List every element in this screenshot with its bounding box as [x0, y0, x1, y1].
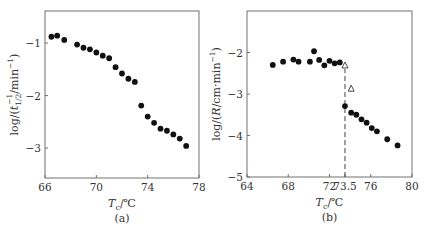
- data-point: [170, 132, 176, 138]
- data-point: [332, 60, 338, 66]
- data-point: [106, 55, 112, 61]
- figure: 66707478−1−2−3Tc/℃(a)log/(t1/2−1/min−1) …: [0, 0, 426, 233]
- x-tick-label: 78: [192, 181, 205, 193]
- data-point: [49, 34, 55, 40]
- data-point: [119, 71, 125, 77]
- data-point: [177, 136, 183, 142]
- data-point: [81, 45, 87, 51]
- data-point: [296, 59, 302, 65]
- plot-frame: [45, 11, 199, 178]
- panel-caption: (b): [322, 211, 338, 224]
- data-point: [342, 103, 348, 109]
- panel-caption: (a): [114, 212, 129, 225]
- data-point: [270, 62, 276, 68]
- x-tick-label: 76: [364, 180, 378, 192]
- data-point: [138, 103, 144, 109]
- x-tick-label: 73.5: [333, 180, 356, 192]
- y-axis-label: log/(R/cm·min−1): [208, 47, 223, 141]
- data-point: [348, 110, 354, 116]
- data-point: [321, 62, 327, 68]
- x-tick-label: 80: [405, 180, 418, 192]
- y-axis-label: log/(t1/2−1/min−1): [5, 54, 23, 136]
- x-axis-label: Tc/℃: [316, 196, 344, 211]
- data-point: [291, 57, 297, 63]
- data-point: [316, 57, 322, 63]
- plot-frame: [247, 11, 412, 177]
- data-point: [164, 128, 170, 134]
- data-point: [61, 37, 67, 43]
- x-tick-label: 74: [141, 181, 155, 193]
- data-point: [87, 46, 93, 52]
- data-point: [359, 116, 365, 122]
- data-point: [384, 136, 390, 142]
- y-tick-label: −2: [26, 90, 41, 102]
- data-point: [337, 60, 343, 66]
- data-point: [100, 53, 106, 59]
- y-tick-label: −3: [26, 142, 41, 154]
- data-point: [353, 112, 359, 118]
- data-point: [158, 126, 164, 132]
- y-tick-label: −1: [26, 37, 41, 49]
- y-tick-label: −5: [228, 171, 243, 183]
- data-point: [54, 33, 60, 39]
- y-tick-label: −4: [228, 130, 244, 142]
- data-point: [151, 120, 157, 126]
- chart-panel-b: 64687273.57680−2−3−4−5Tc/℃(b)log/(R/cm·m…: [208, 11, 419, 224]
- triangle-marker: [348, 85, 354, 91]
- x-tick-label: 70: [90, 181, 103, 193]
- y-tick-label: −3: [228, 88, 243, 100]
- data-point: [307, 59, 313, 65]
- data-point: [126, 76, 132, 82]
- data-point: [280, 59, 286, 65]
- data-point: [93, 50, 99, 56]
- data-point: [74, 42, 80, 48]
- data-point: [364, 120, 370, 126]
- data-point: [113, 64, 119, 70]
- data-point: [145, 114, 151, 120]
- data-point: [374, 128, 380, 134]
- x-tick-label: 66: [38, 181, 52, 193]
- data-point: [395, 143, 401, 149]
- data-point: [327, 58, 333, 64]
- data-point: [132, 79, 138, 85]
- y-tick-label: −2: [228, 47, 243, 59]
- data-point: [369, 125, 375, 131]
- x-tick-label: 68: [282, 180, 295, 192]
- triangle-marker: [342, 62, 348, 68]
- data-point: [183, 143, 189, 149]
- chart-panel-a: 66707478−1−2−3Tc/℃(a)log/(t1/2−1/min−1): [5, 11, 206, 225]
- data-point: [311, 48, 317, 54]
- x-axis-label: Tc/℃: [108, 197, 136, 212]
